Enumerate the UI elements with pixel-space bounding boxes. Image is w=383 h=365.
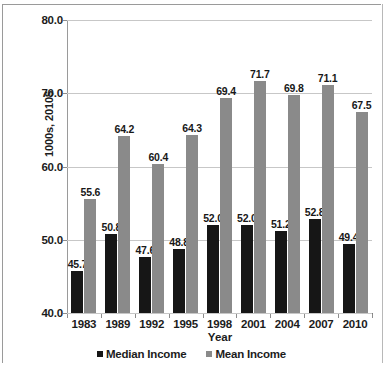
bar-median-1998 bbox=[207, 225, 219, 313]
legend-label: Mean Income bbox=[215, 348, 286, 360]
y-axis-ticks: 40.050.060.070.080.0 bbox=[0, 0, 63, 365]
income-bar-chart: 40.050.060.070.080.0 1000s, 2010$ 45.755… bbox=[0, 0, 383, 365]
x-tick-mark bbox=[67, 314, 68, 318]
bar-label: 69.4 bbox=[213, 85, 239, 97]
bar-median-1992 bbox=[139, 257, 151, 313]
x-tick-label: 1998 bbox=[203, 318, 237, 330]
legend-item-mean-income[interactable]: Mean Income bbox=[206, 348, 286, 360]
y-tick-mark bbox=[63, 313, 67, 314]
mean-swatch-icon bbox=[206, 351, 212, 357]
bar-mean-1995 bbox=[186, 135, 198, 313]
x-axis-title: Year bbox=[67, 331, 373, 343]
y-tick-mark bbox=[63, 93, 67, 94]
bar-label: 71.1 bbox=[315, 72, 341, 84]
x-tick-label: 2010 bbox=[338, 318, 372, 330]
bar-label: 64.3 bbox=[179, 122, 205, 134]
y-axis-title: 1000s, 2010$ bbox=[43, 69, 55, 179]
bar-median-1989 bbox=[105, 234, 117, 313]
y-tick-mark bbox=[63, 167, 67, 168]
x-tick-mark bbox=[203, 314, 204, 318]
x-tick-label: 1995 bbox=[169, 318, 203, 330]
x-tick-label: 1983 bbox=[67, 318, 101, 330]
legend-label: Median Income bbox=[106, 348, 186, 360]
gridline bbox=[67, 20, 372, 21]
x-tick-mark bbox=[101, 314, 102, 318]
bar-median-2010 bbox=[343, 244, 355, 313]
x-tick-label: 1989 bbox=[101, 318, 135, 330]
bar-mean-2001 bbox=[254, 81, 266, 313]
bar-median-2001 bbox=[241, 225, 253, 313]
x-tick-mark bbox=[338, 314, 339, 318]
bar-mean-1983 bbox=[84, 199, 96, 313]
bar-median-1983 bbox=[71, 271, 83, 313]
x-tick-mark bbox=[372, 314, 373, 318]
x-tick-mark bbox=[135, 314, 136, 318]
plot-area: 45.755.650.864.247.660.448.864.352.069.4… bbox=[67, 20, 372, 313]
bar-label: 60.4 bbox=[145, 151, 171, 163]
y-tick-label: 80.0 bbox=[7, 14, 63, 26]
bar-median-2004 bbox=[275, 231, 287, 313]
y-tick-mark bbox=[63, 240, 67, 241]
bar-mean-1989 bbox=[118, 136, 130, 313]
bar-mean-2007 bbox=[322, 85, 334, 313]
x-tick-label: 2001 bbox=[236, 318, 270, 330]
bar-mean-2010 bbox=[356, 112, 368, 313]
bar-median-1995 bbox=[173, 249, 185, 313]
x-tick-label: 2004 bbox=[270, 318, 304, 330]
bar-mean-1992 bbox=[152, 164, 164, 313]
x-tick-mark bbox=[270, 314, 271, 318]
chart-legend: Median IncomeMean Income bbox=[0, 348, 383, 360]
bar-label: 71.7 bbox=[247, 68, 273, 80]
bar-label: 55.6 bbox=[77, 186, 103, 198]
median-swatch-icon bbox=[97, 351, 103, 357]
x-tick-label: 1992 bbox=[135, 318, 169, 330]
x-tick-label: 2007 bbox=[304, 318, 338, 330]
y-tick-label: 40.0 bbox=[7, 307, 63, 319]
y-tick-label: 50.0 bbox=[7, 234, 63, 246]
bar-median-2007 bbox=[309, 219, 321, 313]
bar-label: 67.5 bbox=[349, 99, 375, 111]
legend-item-median-income[interactable]: Median Income bbox=[97, 348, 186, 360]
x-tick-mark bbox=[304, 314, 305, 318]
bar-mean-1998 bbox=[220, 98, 232, 313]
y-tick-mark bbox=[63, 20, 67, 21]
bar-label: 64.2 bbox=[111, 123, 137, 135]
bar-mean-2004 bbox=[288, 95, 300, 313]
x-tick-mark bbox=[169, 314, 170, 318]
x-tick-mark bbox=[236, 314, 237, 318]
bar-label: 69.8 bbox=[281, 82, 307, 94]
